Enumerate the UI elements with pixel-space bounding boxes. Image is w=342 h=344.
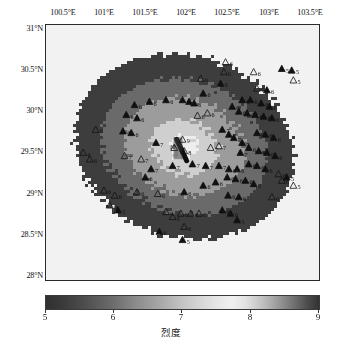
station-intensity-label: 6 [255, 98, 258, 105]
station-marker [121, 152, 128, 158]
station-marker [111, 192, 118, 198]
station-intensity-label: 6 [207, 91, 210, 98]
station-intensity-label: 7 [223, 144, 226, 151]
station-marker [254, 85, 261, 91]
station-marker [153, 139, 160, 145]
station-intensity-label: 6 [241, 167, 244, 174]
colorbar-tick-label: 5 [43, 312, 48, 322]
x-tick-label: 100.5°E [50, 8, 75, 17]
station-marker [255, 147, 262, 153]
station-marker [134, 189, 141, 195]
station-marker [181, 189, 188, 195]
station-marker [222, 59, 229, 65]
station-intensity-label: 6 [149, 175, 152, 182]
station-marker [138, 156, 145, 162]
station-intensity-label: 7 [155, 167, 158, 174]
station-intensity-label: 6 [198, 101, 201, 108]
station-marker [194, 112, 201, 118]
station-intensity-label: 6 [278, 136, 281, 143]
station-intensity-label: 6 [279, 154, 282, 161]
station-marker [288, 67, 295, 73]
station-intensity-label: 6 [203, 211, 206, 218]
station-marker [219, 126, 226, 132]
colorbar [45, 295, 320, 310]
station-intensity-label: 6 [170, 98, 173, 105]
station-intensity-label: 6 [130, 113, 133, 120]
station-intensity-label: 6 [274, 104, 277, 111]
station-intensity-label: 6 [119, 193, 122, 200]
station-intensity-label: 6 [258, 182, 261, 189]
colorbar-tick-label: 8 [248, 312, 253, 322]
station-marker [163, 208, 170, 214]
station-marker [224, 174, 231, 180]
station-intensity-label: 6 [100, 127, 103, 134]
station-marker [179, 136, 186, 142]
station-marker [169, 162, 176, 168]
station-intensity-label: 6 [207, 183, 210, 190]
x-tick-label: 102.5°E [214, 8, 239, 17]
station-intensity-label: 6 [141, 190, 144, 197]
station-intensity-label: 5 [241, 218, 244, 225]
station-marker [92, 126, 99, 132]
station-marker [123, 111, 130, 117]
station-marker [101, 187, 108, 193]
station-intensity-label: 6 [177, 215, 180, 222]
station-intensity-label: 6 [188, 225, 191, 232]
station-marker [179, 96, 186, 102]
station-marker [225, 166, 232, 172]
x-tick-label: 103°E [259, 8, 279, 17]
station-marker [156, 228, 163, 234]
station-marker [134, 115, 141, 121]
station-intensity-label: 6 [154, 100, 157, 107]
station-intensity-label: 6 [188, 190, 191, 197]
station-marker [181, 223, 188, 229]
station-marker [204, 110, 211, 116]
station-intensity-label: 7 [210, 164, 213, 171]
station-marker [212, 179, 219, 185]
y-tick-label: 29.5°N [21, 147, 43, 156]
station-intensity-label: 5 [187, 238, 190, 245]
station-intensity-label: 6 [135, 131, 138, 138]
station-intensity-label: 5 [298, 78, 301, 85]
x-tick-label: 101°E [94, 8, 114, 17]
station-intensity-label: 5 [291, 175, 294, 182]
station-intensity-label: 7 [223, 164, 226, 171]
station-marker [106, 202, 113, 208]
station-marker [154, 190, 161, 196]
station-intensity-label: 6 [94, 157, 97, 164]
station-marker [148, 166, 155, 172]
station-marker [242, 177, 249, 183]
station-intensity-label: 7 [145, 157, 148, 164]
station-marker [250, 68, 257, 74]
station-intensity-label: 7 [129, 154, 132, 161]
station-intensity-label: 6 [212, 111, 215, 118]
station-intensity-label: 7 [177, 164, 180, 171]
station-marker [142, 174, 149, 180]
station-intensity-label: 6 [276, 195, 279, 202]
station-marker-overlay: 6665556666666666666666666666666677766677… [46, 25, 319, 280]
station-intensity-label: 6 [202, 113, 205, 120]
station-marker [131, 101, 138, 107]
station-marker [197, 75, 204, 81]
y-tick-label: 30°N [26, 106, 43, 115]
x-tick-label: 103.5°E [297, 8, 322, 17]
epicenter-intensity-label: 10 [170, 143, 176, 150]
station-marker [200, 182, 207, 188]
station-intensity-label: 6 [253, 146, 256, 153]
station-intensity-label: 6 [141, 116, 144, 123]
station-intensity-label: 6 [225, 81, 228, 88]
station-intensity-label: 7 [215, 146, 218, 153]
figure-root: 100.5°E 101°E 101.5°E 102°E 102.5°E 103°… [0, 0, 342, 344]
station-intensity-label: 6 [269, 167, 272, 174]
station-marker [245, 161, 252, 167]
station-marker [216, 162, 223, 168]
station-marker [120, 128, 127, 134]
station-intensity-label: 7 [197, 162, 200, 169]
station-marker [235, 194, 242, 200]
station-marker [220, 68, 227, 74]
station-marker [219, 207, 226, 213]
y-tick-label: 29°N [26, 189, 43, 198]
station-intensity-label: 6 [230, 60, 233, 67]
station-intensity-label: 7 [245, 151, 248, 158]
station-marker [258, 100, 265, 106]
